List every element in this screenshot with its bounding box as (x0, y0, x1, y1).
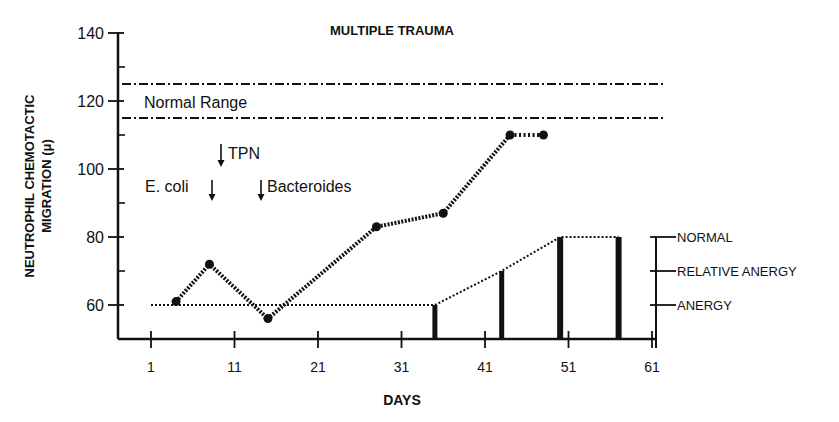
y-tick-label: 140 (77, 25, 104, 42)
skin-test-bar (499, 271, 504, 339)
x-tick-label: 1 (147, 359, 155, 375)
data-point-marker (539, 131, 548, 140)
data-point-marker (172, 297, 181, 306)
data-point-marker (372, 222, 381, 231)
skin-test-bar (616, 237, 622, 339)
x-tick-label: 11 (227, 359, 242, 375)
x-tick-label: 51 (561, 359, 577, 375)
right-axis: NORMALRELATIVE ANERGYANERGY (650, 230, 797, 348)
tpn-arrow-icon-head (218, 160, 225, 167)
annotations: TPNE. coliBacteroides (145, 144, 352, 201)
tpn-label: TPN (228, 145, 260, 162)
y-axis-label-line-1: NEUTROPHIL CHEMOTACTIC (22, 94, 37, 278)
data-point-marker (263, 314, 272, 323)
y-tick-label: 60 (86, 297, 104, 314)
y-tick-label: 120 (77, 93, 104, 110)
skin-test-bar (432, 305, 437, 339)
normal-range-label: Normal Range (144, 94, 247, 111)
right-axis-label: RELATIVE ANERGY (677, 264, 797, 279)
right-axis-label: ANERGY (677, 298, 732, 313)
data-point-marker (506, 131, 515, 140)
x-tick-label: 61 (644, 359, 660, 375)
ecoli-arrow-icon-head (209, 194, 216, 201)
axes (118, 32, 656, 339)
migration-line-dotted (176, 135, 510, 319)
x-tick-label: 41 (477, 359, 493, 375)
skin-test-bars (151, 237, 622, 339)
x-axis-label: DAYS (383, 392, 421, 408)
y-axis-label: NEUTROPHIL CHEMOTACTIC MIGRATION (μ) (22, 94, 54, 278)
normal-range-band: Normal Range (122, 84, 663, 118)
skin-test-trend-dotted (435, 237, 619, 305)
x-tick-label: 31 (394, 359, 410, 375)
data-point-marker (439, 209, 448, 218)
y-tick-label: 80 (86, 229, 104, 246)
right-axis-label: NORMAL (677, 230, 733, 245)
ecoli-label: E. coli (145, 178, 189, 195)
x-axis-ticks: 1112131415161 (147, 331, 660, 375)
data-point-marker (205, 260, 214, 269)
y-tick-label: 100 (77, 161, 104, 178)
chart: MULTIPLE TRAUMA NEUTROPHIL CHEMOTACTIC M… (0, 0, 839, 422)
skin-test-bar (557, 237, 563, 339)
bacteroides-arrow-icon-head (258, 194, 265, 201)
bacteroides-label: Bacteroides (267, 178, 352, 195)
chart-title: MULTIPLE TRAUMA (330, 23, 455, 38)
y-axis-label-line-2: MIGRATION (μ) (39, 139, 54, 233)
x-tick-label: 21 (310, 359, 326, 375)
